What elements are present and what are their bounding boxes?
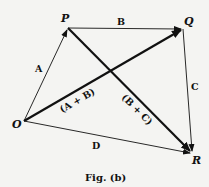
point-label-q: Q (184, 15, 194, 28)
point-label-o: O (12, 118, 22, 131)
point-label-r: R (191, 154, 201, 167)
vector-label-c: C (191, 81, 199, 92)
vector-label-d: D (92, 140, 100, 151)
vector-b (68, 28, 181, 29)
figure-caption: Fig. (b) (85, 172, 126, 183)
vector-label-a: A (34, 63, 43, 74)
vector-a-plus-b (24, 30, 181, 121)
vector-diagram: O P Q R A B C D (A + B) (B + C) Fig. (b) (0, 0, 209, 187)
vector-label-b: B (117, 16, 125, 27)
point-label-p: P (60, 12, 70, 25)
